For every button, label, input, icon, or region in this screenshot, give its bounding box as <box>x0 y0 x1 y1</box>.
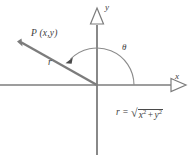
formula-lhs: r <box>116 108 120 118</box>
formula-equals-sign: = <box>123 108 128 118</box>
angle-arc <box>71 48 135 85</box>
radical-icon: √ <box>131 108 138 118</box>
angle-arc-arrowhead-icon <box>66 58 73 64</box>
formula-y-exponent: 2 <box>159 108 162 115</box>
polar-coordinate-diagram: P (x,y) r θ x y r = √ x2+y2 <box>0 0 193 162</box>
point-label: P (x,y) <box>31 29 58 39</box>
formula-radicand: x2+y2 <box>138 109 163 121</box>
diagram-canvas <box>0 0 193 162</box>
angle-label: θ <box>122 43 126 52</box>
radius-label: r <box>48 58 52 68</box>
radius-ray <box>22 43 98 86</box>
y-axis-label: y <box>105 3 109 12</box>
y-axis-arrowhead-icon <box>91 8 104 24</box>
radius-ray-tip <box>17 39 23 47</box>
radius-formula: r = √ x2+y2 <box>116 108 163 121</box>
x-axis-label: x <box>175 72 179 81</box>
